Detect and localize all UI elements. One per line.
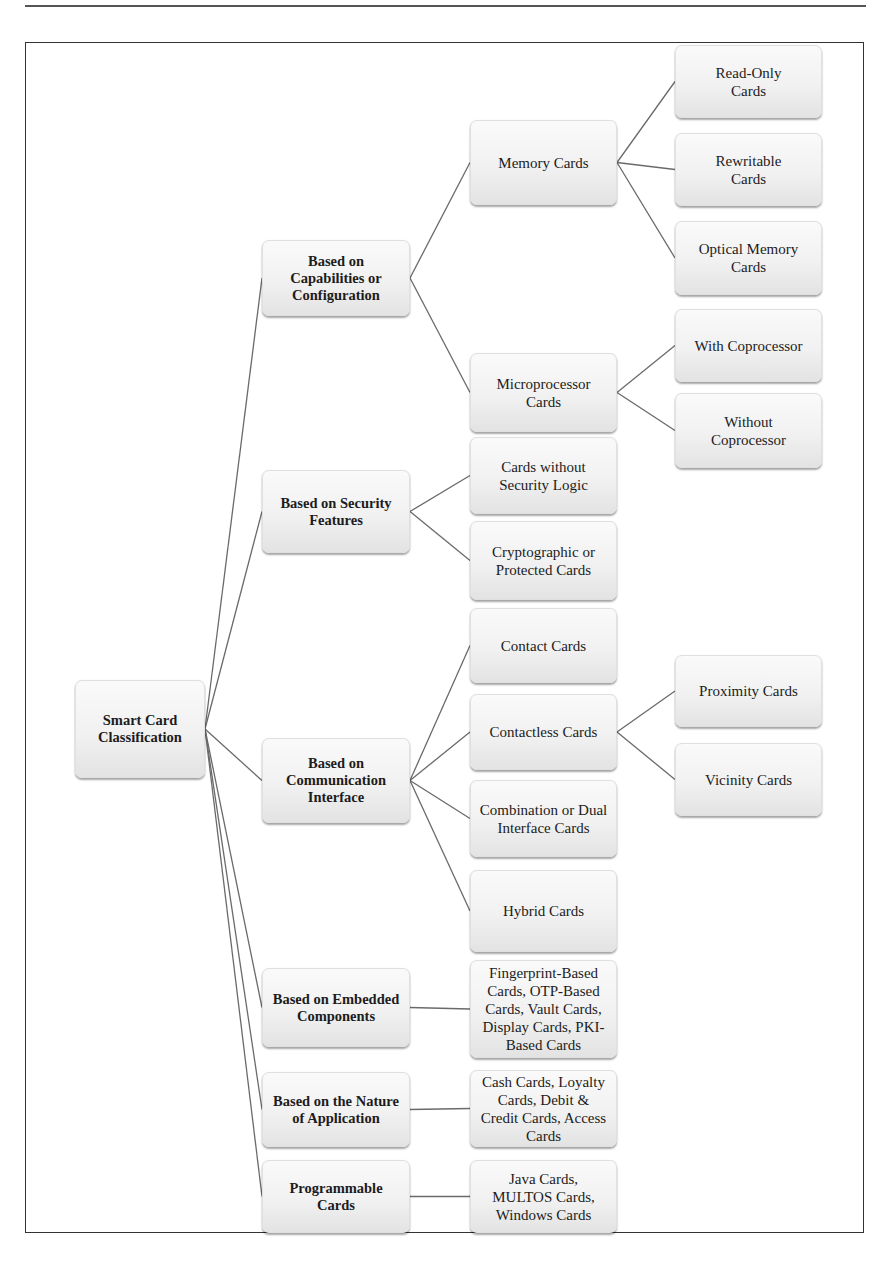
node-label: Optical MemoryCards (699, 240, 799, 276)
node-label-line: Microprocessor (496, 375, 590, 393)
node-label-line: Optical Memory (699, 240, 799, 258)
connector-mem-opt (617, 163, 675, 259)
node-label-line: MULTOS Cards, (492, 1188, 595, 1206)
node-label-line: Display Cards, PKI- (482, 1018, 604, 1036)
node-rewritable-cards: RewritableCards (675, 133, 822, 206)
node-label: Cards withoutSecurity Logic (499, 458, 588, 494)
node-label: Smart CardClassification (98, 712, 182, 746)
node-label: WithoutCoprocessor (711, 413, 786, 449)
node-microprocessor-cards: MicroprocessorCards (470, 353, 617, 432)
connector-com-cls (410, 732, 470, 781)
connector-cls-prox (617, 691, 675, 732)
connector-mem-rw (617, 163, 675, 170)
node-label-line: Rewritable (716, 152, 782, 170)
node-label: Combination or DualInterface Cards (480, 801, 608, 837)
node-contact-cards: Contact Cards (470, 608, 617, 683)
node-label-line: Cards, OTP-Based (482, 982, 604, 1000)
node-based-on-security: Based on SecurityFeatures (262, 470, 410, 553)
node-hybrid-cards: Hybrid Cards (470, 870, 617, 952)
node-label-line: Cryptographic or (492, 543, 595, 561)
node-label-line: Windows Cards (492, 1206, 595, 1224)
node-label-line: Based on the Nature (273, 1093, 399, 1110)
node-label-line: Capabilities or (290, 270, 381, 287)
node-cryptographic-cards: Cryptographic orProtected Cards (470, 521, 617, 600)
node-label: MicroprocessorCards (496, 375, 590, 411)
node-label-line: Cards (496, 393, 590, 411)
node-root: Smart CardClassification (75, 680, 205, 778)
node-read-only-cards: Read-OnlyCards (675, 45, 822, 118)
node-label-line: Based on (290, 253, 381, 270)
node-label-line: Combination or Dual (480, 801, 608, 819)
node-label-line: Based on Embedded (273, 991, 400, 1008)
node-label: Hybrid Cards (503, 902, 584, 920)
node-label-line: Contactless Cards (490, 723, 598, 741)
node-label: Proximity Cards (699, 682, 798, 700)
connector-cap-mem (410, 163, 470, 279)
node-based-on-communication: Based onCommunicationInterface (262, 738, 410, 823)
connector-mic-wc (617, 346, 675, 393)
node-contactless-cards: Contactless Cards (470, 694, 617, 770)
node-label-line: Features (280, 512, 391, 529)
node-label-line: Protected Cards (492, 561, 595, 579)
connector-cap-mic (410, 278, 470, 393)
node-label: Java Cards,MULTOS Cards,Windows Cards (492, 1170, 595, 1224)
connector-sec-cry (410, 512, 470, 561)
connector-nat-natl (410, 1109, 470, 1110)
node-label: Contactless Cards (490, 723, 598, 741)
node-label-line: Fingerprint-Based (482, 964, 604, 982)
node-label-line: Interface Cards (480, 819, 608, 837)
node-label-line: of Application (273, 1110, 399, 1127)
node-label-line: Coprocessor (711, 431, 786, 449)
node-label-line: Cards (716, 170, 782, 188)
node-label: With Coprocessor (694, 337, 802, 355)
node-label: Based onCommunicationInterface (286, 755, 386, 806)
node-programmable-list: Java Cards,MULTOS Cards,Windows Cards (470, 1160, 617, 1233)
node-label-line: Based Cards (482, 1036, 604, 1054)
node-label-line: Cards without (499, 458, 588, 476)
node-label: Memory Cards (498, 154, 588, 172)
node-label: Cryptographic orProtected Cards (492, 543, 595, 579)
connector-mem-ro (617, 82, 675, 163)
node-label: Read-OnlyCards (716, 64, 782, 100)
node-label-line: Cards (481, 1127, 606, 1145)
node-label-line: Based on Security (280, 495, 391, 512)
node-based-on-embedded: Based on EmbeddedComponents (262, 968, 410, 1047)
node-label-line: Cards (699, 258, 799, 276)
node-vicinity-cards: Vicinity Cards (675, 743, 822, 816)
node-label-line: Cards (716, 82, 782, 100)
node-based-on-nature: Based on the Natureof Application (262, 1072, 410, 1147)
connector-sec-nosec (410, 476, 470, 512)
node-label-line: Smart Card (98, 712, 182, 729)
node-label-line: Programmable (289, 1180, 382, 1197)
node-label-line: Without (711, 413, 786, 431)
connector-cls-vic (617, 732, 675, 780)
node-application-list: Cash Cards, LoyaltyCards, Debit &Credit … (470, 1070, 617, 1147)
connector-com-cnt (410, 646, 470, 781)
connector-root-cap (205, 278, 262, 729)
node-label-line: With Coprocessor (694, 337, 802, 355)
node-label-line: Cards, Debit & (481, 1091, 606, 1109)
node-label: ProgrammableCards (289, 1180, 382, 1214)
node-label-line: Interface (286, 789, 386, 806)
node-optical-memory-cards: Optical MemoryCards (675, 221, 822, 295)
node-embedded-list: Fingerprint-BasedCards, OTP-BasedCards, … (470, 960, 617, 1058)
node-programmable: ProgrammableCards (262, 1160, 410, 1233)
node-label-line: Cash Cards, Loyalty (481, 1073, 606, 1091)
node-label-line: Configuration (290, 287, 381, 304)
connector-emb-embl (410, 1008, 470, 1010)
node-label: Vicinity Cards (705, 771, 792, 789)
connector-root-nat (205, 729, 262, 1110)
node-label-line: Components (273, 1008, 400, 1025)
node-label-line: Memory Cards (498, 154, 588, 172)
node-label-line: Classification (98, 729, 182, 746)
node-label: Based onCapabilities orConfiguration (290, 253, 381, 304)
node-label-line: Proximity Cards (699, 682, 798, 700)
node-dual-interface-cards: Combination or DualInterface Cards (470, 780, 617, 857)
connector-root-sec (205, 512, 262, 730)
node-label-line: Read-Only (716, 64, 782, 82)
node-label: Fingerprint-BasedCards, OTP-BasedCards, … (482, 964, 604, 1054)
node-label: Based on SecurityFeatures (280, 495, 391, 529)
node-label-line: Cards (289, 1197, 382, 1214)
connector-mic-woc (617, 393, 675, 431)
node-label: Based on the Natureof Application (273, 1093, 399, 1127)
